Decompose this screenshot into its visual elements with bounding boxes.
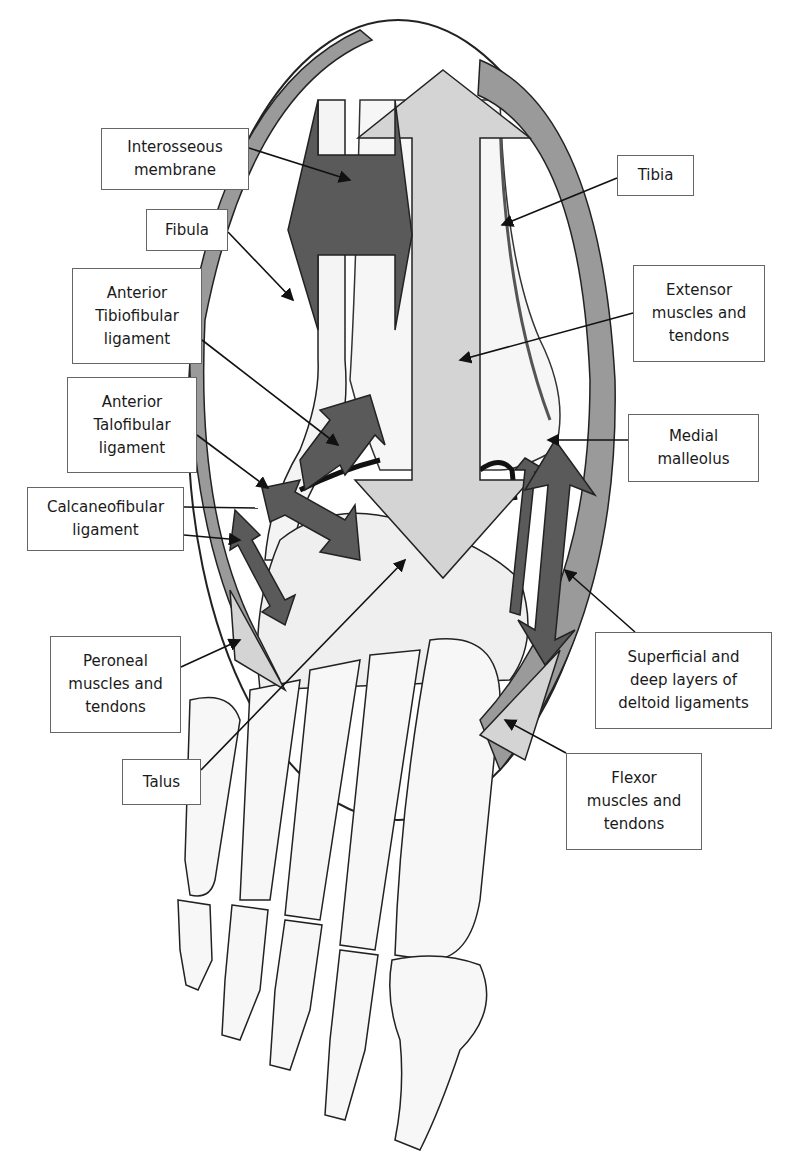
label-extensor-muscles-and-tendons: Extensor muscles and tendons xyxy=(633,265,765,362)
label-calcaneofibular-ligament: Calcaneofibular ligament xyxy=(27,487,184,551)
label-deltoid-ligaments: Superficial and deep layers of deltoid l… xyxy=(595,632,772,729)
label-text: Peroneal muscles and tendons xyxy=(68,650,162,719)
label-anterior-talofibular-ligament: Anterior Talofibular ligament xyxy=(67,377,197,473)
label-medial-malleolus: Medial malleolus xyxy=(628,414,759,482)
label-talus: Talus xyxy=(122,759,201,805)
label-text: Calcaneofibular ligament xyxy=(47,496,164,542)
label-text: Flexor muscles and tendons xyxy=(587,767,681,836)
label-text: Superficial and deep layers of deltoid l… xyxy=(618,646,749,715)
label-tibia: Tibia xyxy=(617,155,694,196)
label-anterior-tibiofibular-ligament: Anterior Tibiofibular ligament xyxy=(72,268,202,364)
label-text: Talus xyxy=(143,771,180,794)
label-text: Anterior Tibiofibular ligament xyxy=(95,282,179,351)
label-text: Tibia xyxy=(638,164,674,187)
label-interosseous-membrane: Interosseous membrane xyxy=(101,128,249,190)
label-fibula: Fibula xyxy=(146,209,228,251)
label-text: Fibula xyxy=(165,219,209,242)
label-text: Extensor muscles and tendons xyxy=(652,279,746,348)
label-text: Anterior Talofibular ligament xyxy=(93,391,170,460)
label-text: Interosseous membrane xyxy=(127,136,222,182)
label-text: Medial malleolus xyxy=(657,425,729,471)
label-flexor-muscles-and-tendons: Flexor muscles and tendons xyxy=(566,753,702,850)
label-peroneal-muscles-and-tendons: Peroneal muscles and tendons xyxy=(50,636,181,733)
